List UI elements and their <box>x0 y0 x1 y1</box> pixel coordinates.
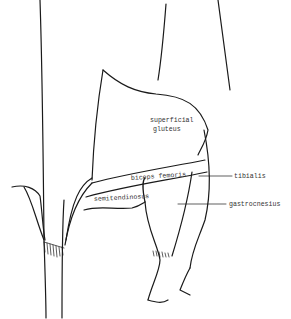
lower-leg-right <box>180 268 190 295</box>
left-leg-front-flap <box>12 186 45 240</box>
lower-leg-curve <box>148 300 168 302</box>
label-superficial-gluteus-line1: superficial <box>150 117 194 124</box>
semitendinosus-bottom-edge <box>84 202 145 210</box>
gluteus-left-edge <box>92 70 103 180</box>
right-joint-hatching <box>153 251 169 257</box>
body-outline-left <box>158 4 166 80</box>
gastrocnemius-inner-edge <box>172 172 192 256</box>
left-joint-hatching <box>44 242 64 257</box>
middle-leg-contour <box>145 202 160 300</box>
superficial-gluteus-muscle <box>103 70 208 155</box>
left-leg-flap-2 <box>24 187 44 240</box>
label-gastrocnemius: gastrocnesius <box>229 201 280 208</box>
body-outline-right <box>218 0 230 90</box>
label-semitendinosus: semitendinosus <box>94 193 150 203</box>
label-superficial-gluteus-line2: gluteus <box>153 126 181 133</box>
left-leg-outer <box>40 0 46 318</box>
diagram-canvas: superficial gluteus biceps femoris semit… <box>0 0 291 319</box>
left-leg-inner <box>62 200 64 318</box>
leg-muscle-diagram: superficial gluteus biceps femoris semit… <box>0 0 291 319</box>
label-tibialis: tibialis <box>234 173 266 180</box>
